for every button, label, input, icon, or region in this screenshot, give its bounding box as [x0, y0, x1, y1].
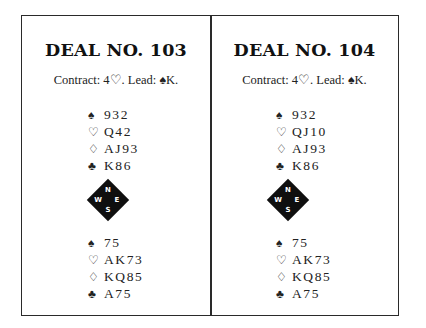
club-icon: ♣: [88, 286, 104, 303]
spade-icon: ♠: [88, 235, 104, 252]
north-hand: ♠932 ♡QJ10 ♢AJ93 ♣K86: [276, 106, 327, 174]
cards: AJ93: [292, 141, 327, 156]
compass-south: S: [103, 206, 113, 214]
hand-row-spades: ♠75: [88, 234, 143, 251]
spade-icon: ♠: [276, 107, 292, 124]
heart-icon: ♡: [276, 124, 292, 141]
cards: AK73: [292, 252, 331, 267]
deal-panel-103: DEAL NO. 103 Contract: 4♡. Lead: ♠K. ♠93…: [22, 15, 210, 316]
hand-row-spades: ♠932: [88, 106, 139, 123]
cards: 75: [104, 235, 121, 250]
deal-title: DEAL NO. 104: [211, 40, 398, 60]
hand-row-diamonds: ♢AJ93: [276, 140, 327, 157]
deal-panel-104: DEAL NO. 104 Contract: 4♡. Lead: ♠K. ♠93…: [211, 15, 398, 316]
club-icon: ♣: [88, 158, 104, 175]
compass-east: E: [112, 196, 122, 204]
hand-row-hearts: ♡AK73: [276, 251, 331, 268]
cards: QJ10: [292, 124, 327, 139]
compass-icon: N E S W: [87, 179, 129, 221]
compass-east: E: [292, 196, 302, 204]
hand-row-hearts: ♡Q42: [88, 123, 139, 140]
compass-icon: N E S W: [267, 179, 309, 221]
hand-row-spades: ♠75: [276, 234, 331, 251]
hand-row-clubs: ♣K86: [276, 157, 327, 174]
cards: K86: [292, 158, 320, 173]
cards: A75: [292, 286, 320, 301]
cards: 75: [292, 235, 309, 250]
compass-north: N: [103, 186, 113, 194]
cards: A75: [104, 286, 132, 301]
south-hand: ♠75 ♡AK73 ♢KQ85 ♣A75: [88, 234, 143, 302]
cards: AJ93: [104, 141, 139, 156]
diamond-icon: ♢: [88, 269, 104, 286]
cards: 932: [292, 107, 317, 122]
deal-title: DEAL NO. 103: [22, 40, 210, 60]
diamond-icon: ♢: [276, 141, 292, 158]
cards: KQ85: [292, 269, 331, 284]
cards: 932: [104, 107, 129, 122]
spade-icon: ♠: [88, 107, 104, 124]
cards: AK73: [104, 252, 143, 267]
hand-row-spades: ♠932: [276, 106, 327, 123]
cards: K86: [104, 158, 132, 173]
compass-west: W: [93, 196, 103, 204]
cards: KQ85: [104, 269, 143, 284]
hand-row-diamonds: ♢KQ85: [276, 268, 331, 285]
cards: Q42: [104, 124, 132, 139]
spade-icon: ♠: [276, 235, 292, 252]
diamond-icon: ♢: [276, 269, 292, 286]
club-icon: ♣: [276, 158, 292, 175]
compass-north: N: [283, 186, 293, 194]
contract-line: Contract: 4♡. Lead: ♠K.: [22, 72, 210, 88]
diamond-icon: ♢: [88, 141, 104, 158]
contract-line: Contract: 4♡. Lead: ♠K.: [211, 72, 398, 88]
north-hand: ♠932 ♡Q42 ♢AJ93 ♣K86: [88, 106, 139, 174]
south-hand: ♠75 ♡AK73 ♢KQ85 ♣A75: [276, 234, 331, 302]
hand-row-clubs: ♣K86: [88, 157, 139, 174]
hand-row-hearts: ♡QJ10: [276, 123, 327, 140]
hand-row-clubs: ♣A75: [88, 285, 143, 302]
heart-icon: ♡: [88, 124, 104, 141]
heart-icon: ♡: [276, 252, 292, 269]
heart-icon: ♡: [88, 252, 104, 269]
hand-row-clubs: ♣A75: [276, 285, 331, 302]
hand-row-hearts: ♡AK73: [88, 251, 143, 268]
compass-south: S: [283, 206, 293, 214]
hand-row-diamonds: ♢AJ93: [88, 140, 139, 157]
club-icon: ♣: [276, 286, 292, 303]
compass-west: W: [273, 196, 283, 204]
hand-row-diamonds: ♢KQ85: [88, 268, 143, 285]
